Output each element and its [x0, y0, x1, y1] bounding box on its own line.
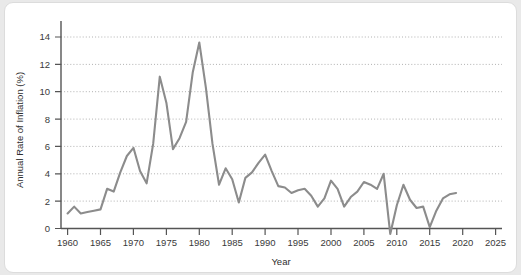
y-tick-label-14: 14: [39, 31, 50, 42]
x-tick-label-1960: 1960: [57, 237, 78, 248]
x-tick-label-1970: 1970: [123, 237, 144, 248]
x-tick-label-1990: 1990: [255, 237, 276, 248]
y-tick-label-12: 12: [39, 59, 50, 70]
x-tick-label-1965: 1965: [90, 237, 111, 248]
y-tick-label-0: 0: [45, 223, 50, 234]
chart-card: 14 12 10 8 6 4 2 0 Annual Rate of Inflat…: [4, 2, 517, 273]
y-tick-label-6: 6: [45, 141, 50, 152]
x-axis-title: Year: [271, 256, 290, 267]
x-tick-label-1995: 1995: [287, 237, 308, 248]
x-axis: 1960 1965 1970 1975 1980 1985 1990 1995 …: [57, 229, 506, 268]
x-tick-label-2020: 2020: [452, 237, 473, 248]
x-tick-label-2010: 2010: [386, 237, 407, 248]
y-tick-label-10: 10: [39, 86, 50, 97]
x-tick-label-1985: 1985: [222, 237, 243, 248]
inflation-series-line: [68, 42, 456, 234]
x-tick-label-2025: 2025: [485, 237, 506, 248]
inflation-line-chart: 14 12 10 8 6 4 2 0 Annual Rate of Inflat…: [5, 3, 517, 273]
y-tick-label-2: 2: [45, 196, 50, 207]
x-tick-label-2005: 2005: [353, 237, 374, 248]
x-tick-label-1975: 1975: [156, 237, 177, 248]
y-axis: 14 12 10 8 6 4 2 0 Annual Rate of Inflat…: [14, 21, 61, 234]
gridlines: [61, 37, 502, 201]
y-axis-title: Annual Rate of Inflation (%): [14, 72, 25, 188]
x-tick-label-2015: 2015: [419, 237, 440, 248]
y-tick-label-4: 4: [45, 168, 50, 179]
y-tick-label-8: 8: [45, 114, 50, 125]
x-tick-label-1980: 1980: [189, 237, 210, 248]
x-tick-label-2000: 2000: [320, 237, 341, 248]
